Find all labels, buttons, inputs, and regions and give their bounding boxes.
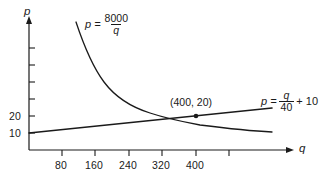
demand-equation-denominator: q bbox=[111, 24, 121, 36]
x-axis-label: q bbox=[299, 143, 305, 155]
y-tick-label-10: 10 bbox=[9, 128, 21, 139]
supply-equation-numerator: q bbox=[282, 90, 292, 101]
equilibrium-point-label: (400, 20) bbox=[170, 97, 212, 108]
x-tick-label-160: 160 bbox=[85, 160, 103, 171]
x-axis-ticks bbox=[62, 150, 229, 156]
supply-equation-annotation: p = q 40 + 10 bbox=[261, 90, 318, 113]
demand-equation-numerator: 8000 bbox=[103, 13, 130, 24]
chart-figure: p q 20 10 80 160 240 320 400 p = 8000 q … bbox=[0, 0, 330, 182]
demand-equation-fraction: 8000 q bbox=[103, 13, 130, 36]
x-tick-label-240: 240 bbox=[119, 160, 137, 171]
supply-equation-denominator: 40 bbox=[279, 101, 295, 113]
x-tick-label-320: 320 bbox=[152, 160, 170, 171]
y-axis-label: p bbox=[24, 6, 30, 18]
supply-equation-tail: + 10 bbox=[296, 96, 318, 107]
x-tick-label-80: 80 bbox=[55, 160, 67, 171]
demand-curve bbox=[76, 22, 272, 132]
x-axis-arrowhead bbox=[286, 147, 294, 153]
x-tick-label-400: 400 bbox=[186, 160, 204, 171]
equilibrium-point-marker bbox=[194, 114, 199, 119]
supply-equation-lhs: p = bbox=[261, 96, 277, 107]
supply-equation-fraction: q 40 bbox=[279, 90, 295, 113]
demand-equation-annotation: p = 8000 q bbox=[85, 13, 130, 36]
demand-equation-lhs: p = bbox=[85, 19, 101, 30]
y-tick-label-20: 20 bbox=[9, 111, 21, 122]
y-axis-ticks bbox=[29, 48, 35, 133]
